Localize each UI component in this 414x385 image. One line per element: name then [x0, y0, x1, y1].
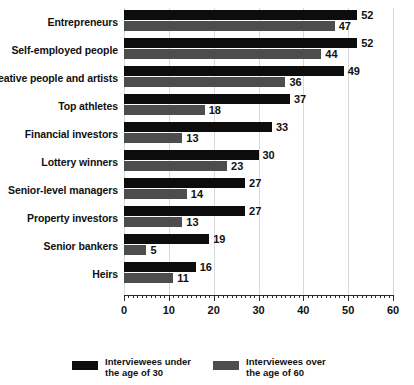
bar-group: 1611: [124, 260, 393, 288]
legend-swatch-icon-over-60: [213, 361, 239, 370]
axis-tick-major: [303, 295, 304, 301]
axis-tick-minor: [236, 295, 237, 298]
bar-over: [124, 217, 182, 227]
bar-under: [124, 10, 357, 20]
bar-value-label: 27: [249, 206, 261, 216]
category-label: Lottery winners: [41, 156, 118, 168]
axis-tick-major: [393, 295, 394, 301]
axis-tick-label: 0: [121, 304, 127, 316]
axis-tick-minor: [164, 295, 165, 298]
bar-group: 2713: [124, 204, 393, 232]
axis-tick-minor: [245, 295, 246, 298]
category-label-row: Top athletes: [0, 92, 118, 120]
value-axis: 0102030405060: [124, 295, 393, 325]
bar-value-label: 33: [276, 122, 288, 132]
bar-under: [124, 122, 272, 132]
category-axis-labels: EntrepreneursSelf-employed peopleCreativ…: [0, 8, 118, 288]
axis-tick-minor: [133, 295, 134, 298]
bar-under: [124, 94, 290, 104]
bar-value-label: 47: [339, 21, 351, 31]
bar-value-label: 49: [348, 66, 360, 76]
bar-under: [124, 262, 196, 272]
bar-over: [124, 49, 321, 59]
category-label: Entrepreneurs: [48, 16, 118, 28]
axis-tick-minor: [317, 295, 318, 298]
category-label: Self-employed people: [11, 44, 118, 56]
axis-tick-minor: [196, 295, 197, 298]
bar-value-label: 16: [200, 262, 212, 272]
bar-under: [124, 66, 344, 76]
bar-value-label: 13: [186, 133, 198, 143]
axis-tick-major: [348, 295, 349, 301]
bar-value-label: 37: [294, 94, 306, 104]
axis-tick-minor: [389, 295, 390, 298]
plot-area: 524752444936371833133023271427131951611: [124, 8, 393, 295]
category-label-row: Senior-level managers: [0, 176, 118, 204]
axis-tick-minor: [330, 295, 331, 298]
bar-value-label: 52: [361, 38, 373, 48]
axis-tick-minor: [178, 295, 179, 298]
category-label: Creative people and artists: [0, 72, 118, 84]
category-label-row: Heirs: [0, 260, 118, 288]
axis-tick-minor: [357, 295, 358, 298]
bar-group: 3313: [124, 120, 393, 148]
bar-group: 3718: [124, 92, 393, 120]
bar-over: [124, 161, 227, 171]
axis-tick-minor: [267, 295, 268, 298]
category-label: Top athletes: [58, 100, 118, 112]
bar-group: 5244: [124, 36, 393, 64]
axis-tick-minor: [241, 295, 242, 298]
category-label: Heirs: [92, 268, 118, 280]
axis-tick-minor: [227, 295, 228, 298]
axis-tick-label: 20: [208, 304, 220, 316]
axis-tick-minor: [160, 295, 161, 298]
axis-tick-minor: [272, 295, 273, 298]
axis-tick-minor: [335, 295, 336, 298]
axis-tick-minor: [285, 295, 286, 298]
axis-tick-minor: [254, 295, 255, 298]
axis-tick-minor: [223, 295, 224, 298]
bar-under: [124, 150, 259, 160]
axis-tick-minor: [128, 295, 129, 298]
axis-tick-minor: [308, 295, 309, 298]
bar-value-label: 27: [249, 178, 261, 188]
legend-item-over-60: Interviewees over the age of 60: [213, 356, 326, 378]
horizontal-bar-chart: EntrepreneursSelf-employed peopleCreativ…: [0, 0, 414, 385]
axis-tick-minor: [182, 295, 183, 298]
axis-tick-label: 40: [297, 304, 309, 316]
axis-tick-minor: [281, 295, 282, 298]
category-label-row: Lottery winners: [0, 148, 118, 176]
axis-tick-minor: [142, 295, 143, 298]
category-label-row: Entrepreneurs: [0, 8, 118, 36]
axis-tick-minor: [299, 295, 300, 298]
bar-group: 195: [124, 232, 393, 260]
axis-tick-minor: [232, 295, 233, 298]
axis-tick-minor: [250, 295, 251, 298]
axis-tick-minor: [290, 295, 291, 298]
bar-over: [124, 21, 335, 31]
bar-value-label: 52: [361, 10, 373, 20]
gridline: [393, 8, 394, 295]
axis-tick-minor: [375, 295, 376, 298]
axis-tick-minor: [146, 295, 147, 298]
bar-under: [124, 178, 245, 188]
bar-under: [124, 206, 245, 216]
bar-over: [124, 77, 285, 87]
axis-tick-minor: [173, 295, 174, 298]
bar-value-label: 18: [209, 105, 221, 115]
bar-value-label: 36: [289, 77, 301, 87]
axis-tick-minor: [380, 295, 381, 298]
axis-tick-minor: [137, 295, 138, 298]
category-label-row: Senior bankers: [0, 232, 118, 260]
category-label-row: Financial investors: [0, 120, 118, 148]
axis-tick-minor: [218, 295, 219, 298]
axis-tick-minor: [362, 295, 363, 298]
axis-tick-major: [124, 295, 125, 301]
bar-value-label: 5: [150, 245, 156, 255]
bar-value-label: 44: [325, 49, 337, 59]
bar-rows: 524752444936371833133023271427131951611: [124, 8, 393, 288]
legend-swatch-icon-under-30: [72, 361, 98, 370]
legend-label-over-60: Interviewees over the age of 60: [246, 356, 326, 378]
axis-tick-minor: [344, 295, 345, 298]
axis-tick-minor: [205, 295, 206, 298]
